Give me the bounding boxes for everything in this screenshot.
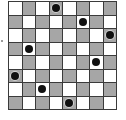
board-cell [90, 70, 103, 83]
board-cell [50, 56, 63, 69]
board-cell [104, 56, 117, 69]
board-cell [104, 70, 117, 83]
board-cell [104, 16, 117, 29]
board-cell [9, 43, 22, 56]
board-cell [63, 16, 76, 29]
board-cell [77, 16, 90, 29]
board-cell [36, 70, 49, 83]
board-cell [63, 83, 76, 96]
board-cell [104, 43, 117, 56]
queen-piece-icon [65, 99, 73, 107]
board-cell [63, 2, 76, 15]
board-cell [36, 97, 49, 110]
board-cell [50, 2, 63, 15]
board-cell [36, 83, 49, 96]
board-cell [77, 43, 90, 56]
board-cell [90, 16, 103, 29]
board-cell [77, 97, 90, 110]
board-cell [36, 56, 49, 69]
board-cell [23, 29, 36, 42]
board-cell [77, 56, 90, 69]
board-cell [104, 97, 117, 110]
board-cell [36, 16, 49, 29]
board-cell [9, 83, 22, 96]
board-cell [90, 83, 103, 96]
checkerboard [8, 1, 117, 110]
board-cell [90, 29, 103, 42]
board-cell [9, 16, 22, 29]
board-cell [23, 56, 36, 69]
board-cell [77, 29, 90, 42]
board-cell [77, 70, 90, 83]
board-cell [63, 70, 76, 83]
queen-piece-icon [25, 45, 33, 53]
board-cell [104, 29, 117, 42]
queen-piece-icon [79, 18, 87, 26]
board-cell [77, 2, 90, 15]
board-cell [23, 70, 36, 83]
board-cell [50, 16, 63, 29]
board-cell [90, 56, 103, 69]
board-cell [9, 97, 22, 110]
queen-piece-icon [52, 4, 60, 12]
board-cell [23, 43, 36, 56]
board-cell [9, 56, 22, 69]
board-cell [50, 97, 63, 110]
board-cell [90, 97, 103, 110]
board-cell [9, 2, 22, 15]
board-cell [50, 70, 63, 83]
queen-piece-icon [92, 58, 100, 66]
board-cell [23, 97, 36, 110]
board-cell [50, 83, 63, 96]
board-cell [9, 29, 22, 42]
board-cell [63, 56, 76, 69]
board-cell [63, 97, 76, 110]
board-cell [63, 29, 76, 42]
board-cell [36, 2, 49, 15]
board-cell [50, 43, 63, 56]
board-cell [104, 2, 117, 15]
board-cell [104, 83, 117, 96]
board-cell [23, 2, 36, 15]
board-cell [90, 43, 103, 56]
board-cell [77, 83, 90, 96]
board-cell [36, 43, 49, 56]
queen-piece-icon [106, 31, 114, 39]
board-cell [23, 16, 36, 29]
board-cell [36, 29, 49, 42]
board-cell [90, 2, 103, 15]
board-cell [50, 29, 63, 42]
board-cell [23, 83, 36, 96]
margin-mark [1, 40, 3, 42]
queen-piece-icon [11, 72, 19, 80]
queen-piece-icon [38, 85, 46, 93]
board-cell [9, 70, 22, 83]
board-cell [63, 43, 76, 56]
